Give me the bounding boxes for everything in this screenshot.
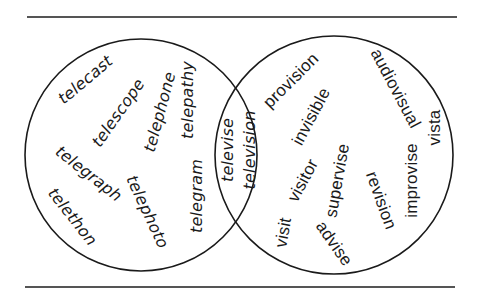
- word-telepathy: telepathy: [180, 61, 196, 139]
- word-telegram: telegram: [189, 159, 205, 233]
- word-visit: visit: [272, 216, 294, 249]
- word-television: television: [241, 110, 257, 189]
- word-improvise: improvise: [402, 143, 419, 218]
- venn-diagram: telecasttelescopetelephonetelepathyteleg…: [0, 0, 478, 304]
- word-vista: vista: [426, 109, 443, 145]
- word-televise: televise: [220, 118, 236, 182]
